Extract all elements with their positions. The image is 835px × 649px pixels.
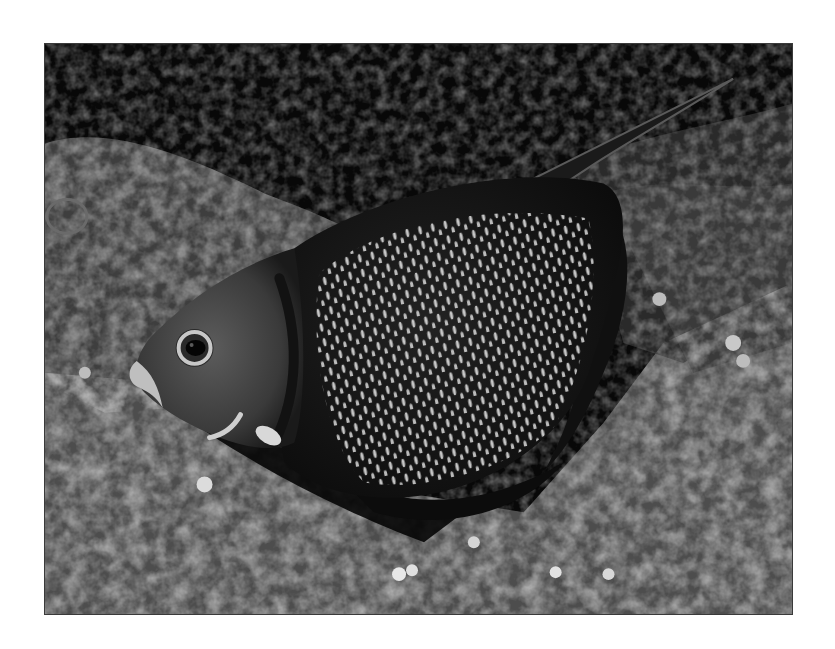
fish-eye — [176, 329, 214, 367]
angelfish-photo — [44, 43, 793, 615]
angelfish-illustration — [45, 44, 792, 614]
page — [0, 0, 835, 649]
